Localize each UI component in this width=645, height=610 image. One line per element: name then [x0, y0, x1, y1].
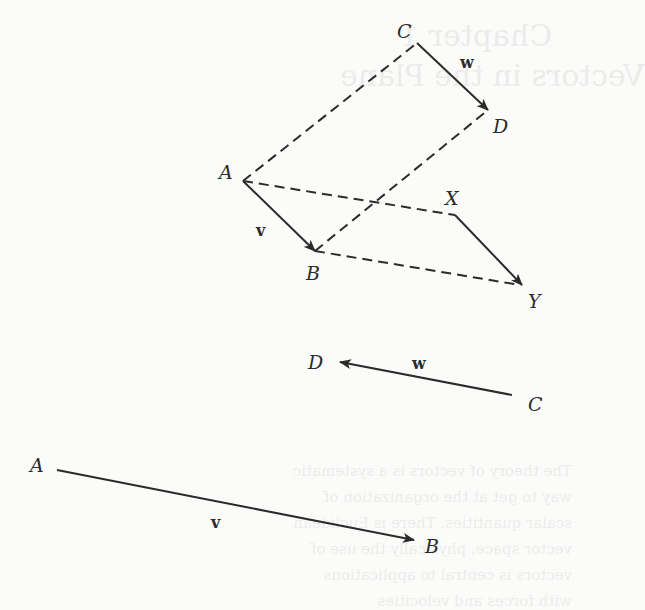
- bottom-vector-diagram: A B v: [28, 454, 439, 557]
- vector-v-a-to-b-bottom: [57, 470, 414, 540]
- point-label-x: X: [443, 187, 460, 209]
- point-label-c: C: [397, 20, 412, 42]
- vector-x-to-y: [455, 215, 522, 285]
- vector-label-w-top: w: [459, 53, 475, 72]
- point-label-a: A: [217, 161, 233, 183]
- vector-label-w-middle: w: [411, 354, 427, 373]
- vector-label-v-top: v: [255, 221, 266, 240]
- point-label-b: B: [305, 262, 320, 284]
- dashed-segment-b-d: [315, 110, 488, 251]
- point-label-d: D: [492, 115, 508, 137]
- vector-label-v-bottom: v: [210, 513, 221, 532]
- point-label-c-middle: C: [528, 393, 543, 415]
- vector-w-c-to-d-middle: [340, 362, 512, 395]
- vector-w-c-to-d: [417, 43, 488, 110]
- top-diagram: C D A X B Y w v: [217, 20, 543, 312]
- dashed-segment-b-y: [315, 251, 520, 285]
- vector-v-a-to-b: [243, 181, 315, 251]
- point-label-d-middle: D: [307, 351, 323, 373]
- point-label-a-bottom: A: [28, 454, 44, 476]
- middle-vector-diagram: D C w: [307, 351, 543, 415]
- dashed-segment-a-c: [243, 43, 417, 181]
- dashed-segment-a-x: [243, 181, 455, 215]
- point-label-b-bottom: B: [424, 535, 439, 557]
- point-label-y: Y: [528, 290, 543, 312]
